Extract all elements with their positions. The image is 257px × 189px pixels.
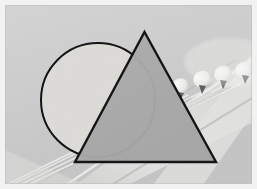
film-grain bbox=[5, 5, 252, 184]
photo-canvas bbox=[0, 0, 257, 189]
photograph-frame bbox=[0, 0, 257, 189]
photo-content bbox=[5, 5, 257, 189]
